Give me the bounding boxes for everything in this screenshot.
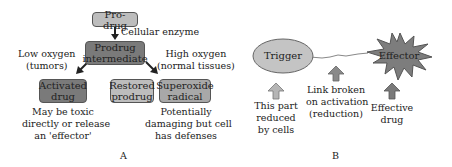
link-note: Link broken on activation (reduction) — [306, 84, 366, 120]
activated-drug-box: Activated drug — [39, 79, 87, 103]
low-oxygen-label: Low oxygen (tumors) — [18, 48, 75, 72]
intermediate-box: Prodrug intermediate — [85, 41, 145, 65]
superoxide-note: Potentially damaging but cell has defens… — [145, 106, 227, 142]
trigger-note: This part reduced by cells — [251, 100, 301, 136]
intermediate-label-1: Prodrug — [94, 42, 136, 53]
up-arrow-dark-icon — [384, 83, 400, 99]
effector-label: Effector — [378, 50, 420, 62]
intermediate-label-2: intermediate — [82, 53, 147, 64]
up-arrow-light-icon — [268, 83, 284, 99]
link-line — [310, 53, 368, 58]
activated-note: May be toxic directly or release an 'eff… — [22, 106, 104, 142]
high-oxygen-label: High oxygen (normal tissues) — [157, 48, 235, 72]
trigger-label: Trigger — [263, 50, 303, 62]
enzyme-label: Cellular enzyme — [121, 26, 199, 38]
prodrug-box: Pro-drug — [92, 12, 138, 27]
up-arrow-link-icon — [328, 66, 344, 81]
panel-a-label: A — [120, 150, 127, 162]
superoxide-radical-box: Superoxide radical — [159, 79, 211, 103]
effector-note: Effective drug — [370, 102, 414, 126]
panel-b-label: B — [332, 150, 339, 162]
restored-prodrug-box: Restored prodrug — [110, 79, 154, 103]
